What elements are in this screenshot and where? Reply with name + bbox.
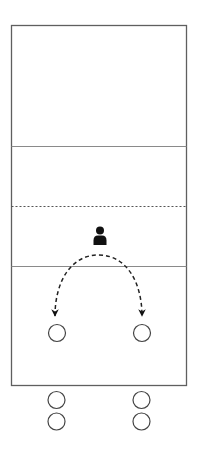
player-circle-left	[49, 325, 66, 342]
waiting-player-left-1	[48, 392, 65, 409]
waiting-player-right-1	[133, 392, 150, 409]
court-outline	[12, 26, 187, 386]
drill-diagram	[0, 0, 197, 449]
waiting-player-left-2	[48, 413, 65, 430]
player-circle-right	[134, 325, 151, 342]
waiting-player-right-2	[133, 413, 150, 430]
